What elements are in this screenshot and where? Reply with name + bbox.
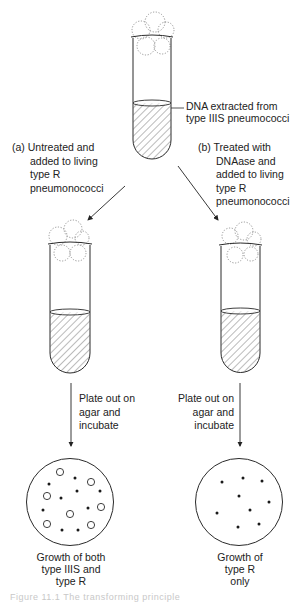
label-line: type IIIS pneumococci [186,113,289,125]
branch-a-label: (a) Untreated and added to living type R… [12,141,104,195]
label-line: Plate out on [178,392,234,406]
type-r-colony-icon [216,477,271,529]
agar-plate-b [196,459,283,546]
cotton-plug-icon [132,12,174,55]
label-line: only [190,575,290,587]
source-tube-label: DNA extracted from type IIIS pneumococci [186,101,289,124]
diagram-canvas [0,0,306,602]
label-line: Plate out on [79,392,135,406]
label-line: type R [21,575,121,587]
cotton-plug-icon [222,222,261,263]
test-tube-a [48,220,92,373]
label-line: DNA extracted from [186,101,289,113]
label-line: type R [198,182,290,196]
result-b-label: Growth of type R only [190,551,290,587]
figure-caption: Figure 11.1 The transforming principle [10,591,180,602]
label-line: agar and [178,406,234,420]
test-tube-b [219,222,262,373]
label-line: pneumonococci [12,182,104,196]
label-line: added to living [12,155,104,169]
branch-b-label: (b) Treated with DNAase and added to liv… [198,141,290,209]
label-line: Growth of [190,551,290,563]
label-line: (b) Treated with [198,141,290,155]
label-line: pneumonococci [198,195,290,209]
result-a-label: Growth of both type IIIS and type R [21,551,121,587]
label-line: type R [190,563,290,575]
label-line: incubate [79,419,135,433]
label-line: added to living [198,168,290,182]
label-line: incubate [178,419,234,433]
label-line: type IIIS and [21,563,121,575]
plate-step-b-label: Plate out on agar and incubate [178,392,234,433]
label-line: agar and [79,406,135,420]
label-line: Growth of both [21,551,121,563]
source-test-tube [131,12,184,159]
label-line: type R [12,168,104,182]
label-line: (a) Untreated and [12,141,104,155]
agar-plate-a [27,459,114,546]
label-line: DNAase and [198,155,290,169]
plate-step-a-label: Plate out on agar and incubate [79,392,135,433]
cotton-plug-icon [49,220,89,261]
